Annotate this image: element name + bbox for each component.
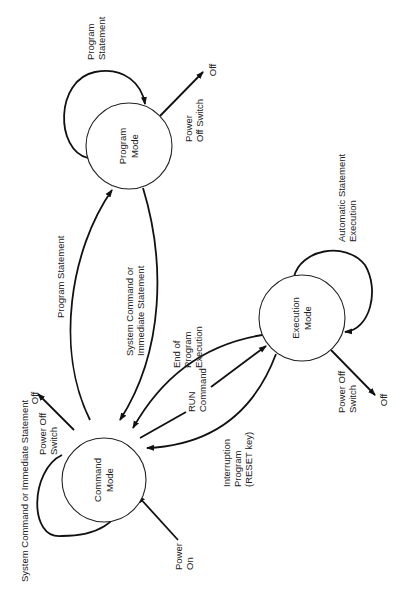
exec-to-cmd-end-label: End of xyxy=(171,340,182,368)
interruption-label: Interruption xyxy=(221,439,232,487)
power-on-arrow xyxy=(138,496,178,540)
svg-text:Switch: Switch xyxy=(48,427,59,455)
state-diagram: Program Mode Program Statement Off Power… xyxy=(0,0,403,597)
execution-mode-label: Execution xyxy=(290,297,301,339)
svg-text:(RESET key): (RESET key) xyxy=(243,432,254,487)
exec-to-cmd-interrupt-edge xyxy=(147,354,276,448)
svg-text:Mode: Mode xyxy=(104,468,115,492)
cmd-to-program-label: Program Statement xyxy=(55,235,66,318)
cmd-to-exec-run-edge-2 xyxy=(211,346,266,387)
program-self-label: Program xyxy=(85,23,96,60)
exec-off-target: Off xyxy=(378,393,389,406)
svg-text:Execution: Execution xyxy=(347,200,358,242)
cmd-to-program-edge xyxy=(70,190,112,420)
svg-text:Command: Command xyxy=(197,368,208,412)
exec-self-label: Automatic Statement xyxy=(336,153,347,242)
svg-text:Statement: Statement xyxy=(96,16,107,60)
svg-text:Execution: Execution xyxy=(193,326,204,368)
exec-off-label: Power Off xyxy=(336,371,347,413)
run-command-label: RUN xyxy=(186,391,197,412)
svg-text:Program: Program xyxy=(182,331,193,368)
program-to-cmd-label: System Command or xyxy=(124,267,135,356)
cmd-to-exec-run-edge xyxy=(140,412,186,438)
command-mode-label: Command xyxy=(92,458,103,502)
cmd-self-label: System Command or Immediate Statement xyxy=(19,399,30,582)
cmd-off-label: Power Off xyxy=(37,413,48,455)
program-off-target: Off xyxy=(207,63,218,76)
program-off-label: Power xyxy=(183,115,194,142)
svg-text:Off Switch: Off Switch xyxy=(194,99,205,142)
svg-text:Program: Program xyxy=(232,450,243,487)
program-mode-label: Program xyxy=(117,128,128,165)
cmd-off-target: Off xyxy=(29,391,40,404)
svg-text:Mode: Mode xyxy=(302,306,313,330)
svg-text:Immediate Statement: Immediate Statement xyxy=(135,265,146,356)
svg-text:Mode: Mode xyxy=(129,134,140,158)
svg-text:On: On xyxy=(184,557,195,570)
svg-text:Switch: Switch xyxy=(347,385,358,413)
power-on-label: Power xyxy=(173,543,184,570)
